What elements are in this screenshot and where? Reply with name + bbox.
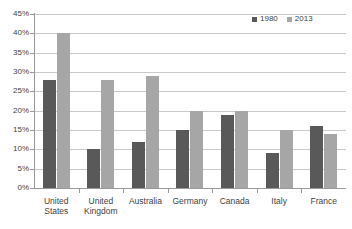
bar bbox=[266, 153, 279, 188]
bar bbox=[176, 130, 189, 188]
bar-group bbox=[212, 14, 257, 188]
y-axis-tick-label: 15% bbox=[2, 126, 29, 134]
bar bbox=[221, 115, 234, 188]
legend-item[interactable]: 1980 bbox=[252, 15, 278, 23]
x-axis-tick bbox=[301, 189, 302, 193]
x-axis-category-label: Australia bbox=[123, 196, 168, 206]
x-axis-line bbox=[34, 188, 346, 189]
y-axis-tick-label: 5% bbox=[2, 165, 29, 173]
y-axis-tick-label: 35% bbox=[2, 49, 29, 57]
bar bbox=[57, 33, 70, 188]
y-axis-tick-label: 40% bbox=[2, 29, 29, 37]
legend-label: 1980 bbox=[260, 15, 278, 23]
bar bbox=[101, 80, 114, 188]
bar bbox=[190, 111, 203, 188]
bar-group bbox=[123, 14, 168, 188]
x-axis-category-label: France bbox=[301, 196, 346, 206]
bar-group bbox=[301, 14, 346, 188]
y-axis-tick-label: 30% bbox=[2, 68, 29, 76]
y-axis-tick-label: 0% bbox=[2, 184, 29, 192]
x-axis-tick bbox=[212, 189, 213, 193]
bar bbox=[324, 134, 337, 188]
bar bbox=[146, 76, 159, 188]
bar-group bbox=[257, 14, 302, 188]
x-axis-category-label: Italy bbox=[257, 196, 302, 206]
bar bbox=[235, 111, 248, 188]
x-axis-category-label: United Kingdom bbox=[79, 196, 124, 216]
x-axis-tick bbox=[168, 189, 169, 193]
legend-item[interactable]: 2013 bbox=[287, 15, 313, 23]
bar bbox=[87, 149, 100, 188]
x-axis-tick bbox=[123, 189, 124, 193]
bar-group bbox=[79, 14, 124, 188]
bar-group bbox=[34, 14, 79, 188]
y-axis-tick-label: 25% bbox=[2, 87, 29, 95]
y-axis-tick-label: 20% bbox=[2, 107, 29, 115]
bar bbox=[310, 126, 323, 188]
legend-label: 2013 bbox=[295, 15, 313, 23]
x-axis-category-label: United States bbox=[34, 196, 79, 216]
bar bbox=[43, 80, 56, 188]
legend-swatch-icon bbox=[287, 17, 292, 22]
bar-chart: 0%5%10%15%20%25%30%35%40%45% United Stat… bbox=[0, 0, 352, 229]
bars-layer bbox=[34, 14, 346, 188]
legend-swatch-icon bbox=[252, 17, 257, 22]
bar bbox=[280, 130, 293, 188]
x-axis-category-label: Germany bbox=[168, 196, 213, 206]
y-axis-tick-label: 45% bbox=[2, 10, 29, 18]
x-axis-tick bbox=[79, 189, 80, 193]
bar-group bbox=[168, 14, 213, 188]
bar bbox=[132, 142, 145, 188]
x-axis-tick bbox=[257, 189, 258, 193]
x-axis-category-label: Canada bbox=[212, 196, 257, 206]
chart-legend: 19802013 bbox=[252, 15, 313, 23]
y-axis-tick-label: 10% bbox=[2, 145, 29, 153]
